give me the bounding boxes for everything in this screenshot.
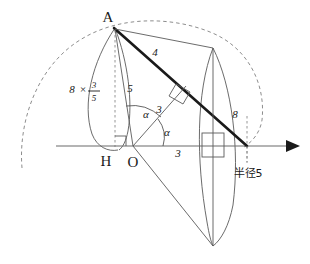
point-label-A: A — [103, 9, 114, 25]
height-expr-numerator: 3 — [91, 80, 97, 90]
point-label-O: O — [128, 154, 139, 170]
angle-label-alpha-lower: α — [164, 126, 170, 138]
height-expr-factor: 8 — [69, 83, 75, 95]
length-label-8: 8 — [232, 108, 238, 120]
segment-O-to-bottom-vertex — [133, 146, 213, 246]
segment-A-to-top-vertex — [115, 29, 213, 48]
radius-note-label: 半径5 — [234, 166, 263, 180]
height-expr-times-icon: × — [79, 83, 86, 95]
height-expr-denominator: 5 — [92, 93, 97, 103]
right-petal-curve-left — [199, 48, 213, 246]
point-label-H: H — [101, 153, 112, 169]
axis-arrowhead-icon — [286, 140, 300, 152]
length-label-4: 4 — [152, 46, 158, 58]
length-label-3-axis: 3 — [174, 147, 181, 159]
length-label-5: 5 — [127, 82, 133, 94]
geometry-canvas: A H O 4 8 5 3 3 α α 8 × 3 5 半径5 — [0, 0, 310, 264]
length-label-3-ray: 3 — [155, 103, 162, 115]
right-angle-mark-H — [115, 136, 126, 146]
geometry-diagram-root: A H O 4 8 5 3 3 α α 8 × 3 5 半径5 — [0, 0, 310, 264]
angle-label-alpha-upper: α — [143, 108, 149, 120]
